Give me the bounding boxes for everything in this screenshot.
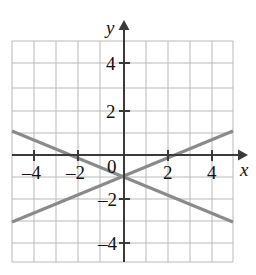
coordinate-plane-figure: –4 –2 2 4 4 2 –2 –4 0 y x xyxy=(0,0,256,275)
y-axis-label: y xyxy=(106,18,114,37)
y-tick-label-4: 4 xyxy=(106,54,116,73)
x-tick-label-4: 4 xyxy=(207,163,217,182)
x-tick-label-2: 2 xyxy=(163,163,173,182)
grid-lines xyxy=(12,41,233,262)
x-tick-label--4: –4 xyxy=(22,163,41,182)
y-axis-arrowhead xyxy=(119,20,130,30)
y-tick-label--4: –4 xyxy=(98,234,117,253)
y-tick-label--2: –2 xyxy=(98,190,117,209)
vertical-grid-lines xyxy=(12,41,233,262)
origin-label: 0 xyxy=(107,157,117,176)
horizontal-grid-lines xyxy=(12,41,233,262)
x-axis-label: x xyxy=(240,160,248,179)
y-tick-label-2: 2 xyxy=(106,102,116,121)
x-tick-label--2: –2 xyxy=(66,163,85,182)
plot-canvas xyxy=(0,0,256,275)
